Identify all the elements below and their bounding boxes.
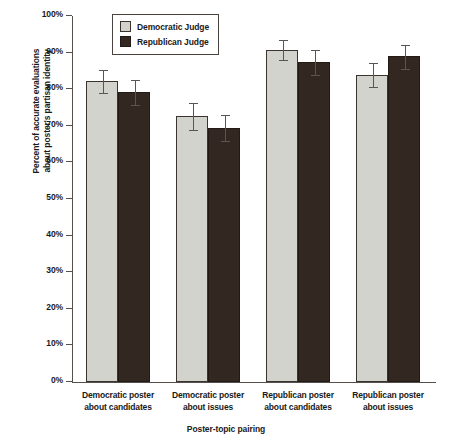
y-tick-label: 100% [42,9,63,19]
x-axis-title: Poster-topic pairing [0,424,452,434]
error-bar-cap-top [221,115,230,116]
legend-item-republican-judge: Republican Judge [120,34,209,49]
bar-group [356,16,420,382]
bar-democratic-judge [356,75,388,382]
legend-label-republican-judge: Republican Judge [137,37,209,47]
x-category-label: Republican posterabout candidates [246,390,350,413]
bar-chart: Percent of accurate evaluations about po… [0,0,452,443]
y-tick: 80% [66,88,72,89]
light-gray-swatch-icon [120,21,131,32]
y-tick-label: 40% [46,229,63,239]
error-bar-cap-top [189,103,198,104]
bar-group [86,16,150,382]
legend: Democratic Judge Republican Judge [112,14,219,55]
x-category-label-line: about issues [156,402,260,414]
x-category-label-line: Republican poster [336,390,440,402]
x-category-label-line: Democratic poster [66,390,170,402]
y-tick-label: 70% [46,119,63,129]
bar-group [176,16,240,382]
y-tick-label: 20% [46,302,63,312]
x-category-label: Democratic posterabout candidates [66,390,170,413]
error-bar-cap-bottom [279,60,288,61]
y-tick: 30% [66,271,72,272]
y-tick: 100% [66,15,72,16]
y-tick: 50% [66,198,72,199]
x-category-label: Democratic posterabout issues [156,390,260,413]
x-category-label-line: about candidates [66,402,170,414]
error-bar [315,50,316,76]
y-tick-label: 50% [46,192,63,202]
error-bar-cap-top [99,70,108,71]
error-bar-cap-top [401,45,410,46]
error-bar [135,80,136,106]
bar-group [266,16,330,382]
error-bar [405,45,406,70]
error-bar [103,70,104,93]
y-tick-label: 60% [46,155,63,165]
error-bar [193,103,194,131]
y-tick: 70% [66,125,72,126]
y-axis-line [72,16,73,383]
legend-item-democratic-judge: Democratic Judge [120,19,209,34]
y-tick: 60% [66,161,72,162]
y-tick: 20% [66,308,72,309]
plot-area: 100%90%80%70%60%50%40%30%20%10%0% [72,16,436,382]
error-bar-cap-bottom [189,130,198,131]
error-bar [225,115,226,141]
bar-democratic-judge [176,116,208,382]
error-bar-cap-bottom [131,105,140,106]
error-bar-cap-top [131,80,140,81]
x-category-label: Republican posterabout issues [336,390,440,413]
error-bar-cap-bottom [401,69,410,70]
error-bar-cap-bottom [221,141,230,142]
error-bar-cap-top [369,63,378,64]
x-category-label-line: about issues [336,402,440,414]
error-bar-cap-top [279,40,288,41]
bar-republican-judge [208,128,240,382]
y-tick-label: 10% [46,338,63,348]
bar-democratic-judge [266,50,298,382]
y-tick: 40% [66,235,72,236]
bar-republican-judge [388,56,420,382]
bar-democratic-judge [86,81,118,382]
y-tick: 0% [66,381,72,382]
x-category-label-line: Democratic poster [156,390,260,402]
bar-republican-judge [118,92,150,382]
error-bar-cap-bottom [99,93,108,94]
error-bar-cap-top [311,50,320,51]
error-bar-cap-bottom [369,87,378,88]
y-tick-label: 0% [51,375,63,385]
y-tick: 10% [66,344,72,345]
x-axis-line [72,382,436,383]
error-bar-cap-bottom [311,75,320,76]
error-bar [373,63,374,89]
bar-republican-judge [298,62,330,382]
dark-swatch-icon [120,36,131,47]
x-category-label-line: Republican poster [246,390,350,402]
y-tick-label: 80% [46,82,63,92]
y-tick-label: 90% [46,46,63,56]
legend-label-democratic-judge: Democratic Judge [137,22,209,32]
x-category-label-line: about candidates [246,402,350,414]
y-tick: 90% [66,52,72,53]
error-bar [283,40,284,60]
y-tick-label: 30% [46,265,63,275]
y-axis-title-line-1: Percent of accurate evaluations [31,0,42,231]
